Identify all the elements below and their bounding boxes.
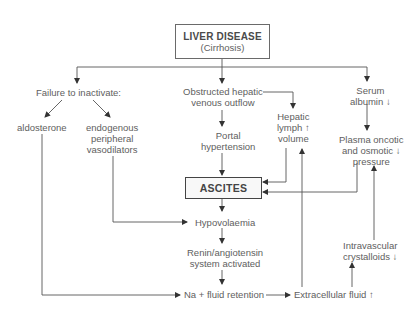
ascites-box: ASCITES — [185, 177, 262, 199]
failure-to-inactivate: Failure to inactivate: — [36, 87, 121, 98]
renin-angiotensin-node: Renin/angiotensin system activated — [187, 247, 263, 269]
sodium-retention-node: Na + fluid retention — [184, 289, 264, 300]
root-subtitle: (Cirrhosis) — [176, 42, 269, 53]
extracellular-fluid-node: Extracellular fluid ↑ — [294, 289, 374, 300]
intravascular-crystalloids-node: Intravascular crystalloids ↓ — [343, 240, 397, 262]
aldosterone-node: aldosterone — [17, 122, 67, 133]
liver-disease-box: LIVER DISEASE (Cirrhosis) — [175, 24, 270, 59]
vasodilators-node: endogenous peripheral vasodilators — [86, 122, 138, 155]
hypovolaemia-node: Hypovolaemia — [195, 217, 255, 228]
plasma-pressure-node: Plasma oncotic and osmotic ↓ pressure — [339, 134, 403, 167]
hepatic-lymph-node: Hepatic lymph ↑ volume — [277, 111, 310, 144]
portal-hypertension-node: Portal hypertension — [201, 130, 255, 152]
obstructed-outflow-node: Obstructed hepatic venous outflow — [183, 86, 263, 108]
serum-albumin-node: Serum albumin ↓ — [350, 85, 391, 107]
root-title: LIVER DISEASE — [176, 31, 269, 42]
ascites-label: ASCITES — [186, 178, 261, 198]
